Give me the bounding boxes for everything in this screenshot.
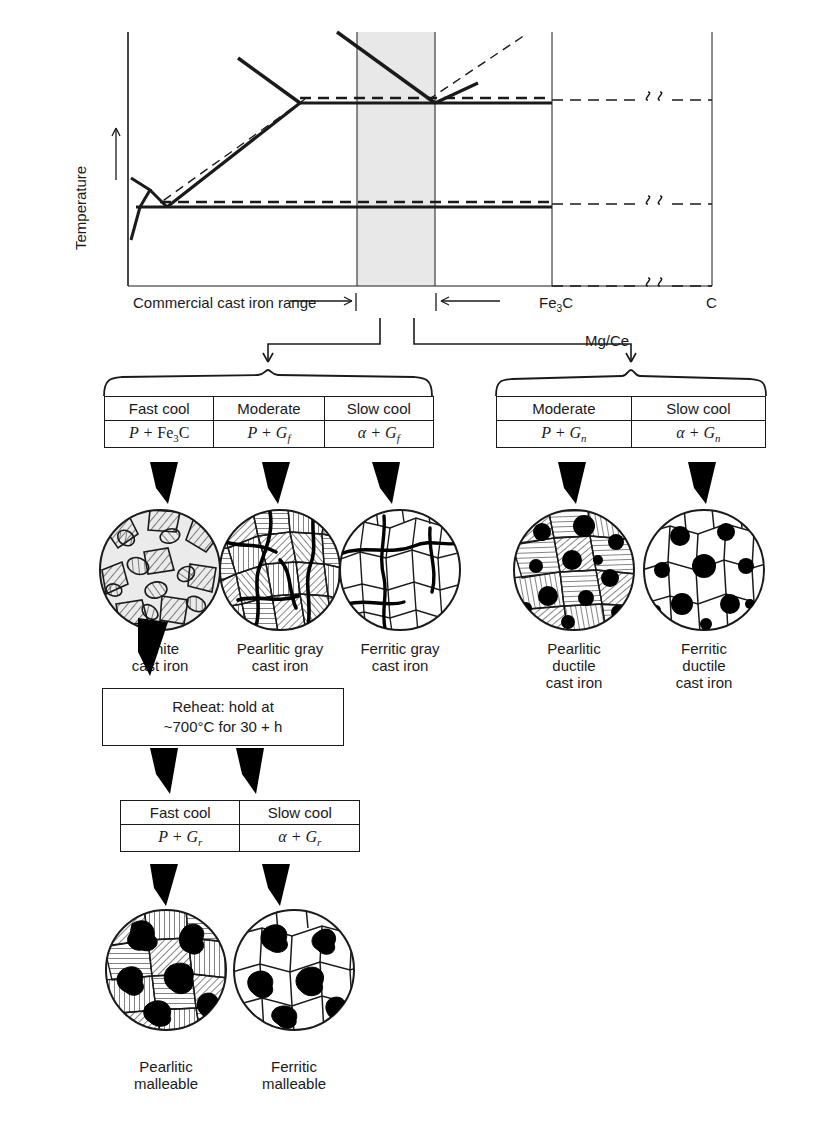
- fe3c-axis-label: Fe3C: [539, 294, 573, 317]
- arrow-to-reheat: [0, 618, 835, 688]
- cell-product-white: P + Fe3C: [105, 421, 214, 448]
- mg-ce-label: Mg/Ce: [585, 332, 629, 349]
- micrograph-ferritic-ductile: [642, 508, 766, 632]
- carbon-axis-label: C: [706, 294, 717, 311]
- cell-slow-cool: Slow cool: [240, 801, 360, 825]
- arrows-to-micrographs-row1: [0, 462, 835, 508]
- table-product-row: P + Gn α + Gn: [497, 421, 766, 448]
- caption-ferritic-malleable: Ferritic malleable: [214, 1058, 374, 1092]
- micrograph-ferritic-malleable: [232, 908, 356, 1032]
- cell-product-ferritic-ductile: α + Gn: [631, 421, 765, 448]
- micrograph-ferritic-gray: [338, 508, 462, 632]
- cell-moderate: Moderate: [497, 397, 632, 421]
- micrograph-white-cast-iron: [98, 508, 222, 632]
- table-header-row: Fast cool Slow cool: [121, 801, 360, 825]
- micrograph-pearlitic-ductile: [512, 508, 636, 632]
- commercial-range-label: Commercial cast iron range: [133, 294, 316, 311]
- micrograph-pearlitic-malleable: [104, 908, 228, 1032]
- ductile-family-table: Moderate Slow cool P + Gn α + Gn: [496, 396, 766, 448]
- shaded-band: [357, 32, 435, 286]
- reheat-line-1: Reheat: hold at: [164, 697, 283, 717]
- reheat-line-2: ~700°C for 30 + h: [164, 717, 283, 737]
- table-product-row: P + Gr α + Gr: [121, 825, 360, 852]
- gray-family-table: Fast cool Moderate Slow cool P + Fe3C P …: [104, 396, 434, 448]
- cell-slow-cool: Slow cool: [631, 397, 765, 421]
- table-header-row: Fast cool Moderate Slow cool: [105, 397, 434, 421]
- arrows-to-micrographs-row2: [0, 864, 835, 910]
- table-product-row: P + Fe3C P + Gf α + Gf: [105, 421, 434, 448]
- cell-product-ferritic-gray: α + Gf: [324, 421, 433, 448]
- cell-product-pearlitic-malleable: P + Gr: [121, 825, 240, 852]
- phase-diagram: Temperature: [0, 0, 835, 330]
- table-braces: [0, 370, 835, 398]
- table-header-row: Moderate Slow cool: [497, 397, 766, 421]
- cell-product-pearlitic-gray: P + Gf: [214, 421, 324, 448]
- micrograph-pearlitic-gray: [218, 508, 342, 632]
- arrows-to-malleable-table: [0, 748, 835, 800]
- y-axis-label: Temperature: [72, 166, 89, 250]
- reheat-box: Reheat: hold at ~700°C for 30 + h: [102, 688, 344, 746]
- malleable-family-table: Fast cool Slow cool P + Gr α + Gr: [120, 800, 360, 852]
- cell-product-pearlitic-ductile: P + Gn: [497, 421, 632, 448]
- phase-diagram-svg: [0, 0, 835, 330]
- cell-fast-cool: Fast cool: [121, 801, 240, 825]
- cell-moderate: Moderate: [214, 397, 324, 421]
- cell-fast-cool: Fast cool: [105, 397, 214, 421]
- cell-product-ferritic-malleable: α + Gr: [240, 825, 360, 852]
- cast-iron-formation-diagram: Temperature: [0, 0, 835, 1143]
- cell-slow-cool: Slow cool: [324, 397, 433, 421]
